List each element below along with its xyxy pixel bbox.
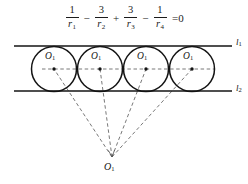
center-point-3	[144, 67, 147, 70]
circle-2-label: O1	[91, 52, 101, 62]
arrowhead-center	[108, 150, 114, 157]
center-point-4	[190, 67, 193, 70]
tangent-circles-diagram: O1 O1 O1 O1 l1 l2 O1	[0, 0, 248, 184]
apex-ray-1	[54, 69, 112, 157]
apex-arrowheads	[108, 150, 114, 157]
center-point-2	[98, 67, 101, 70]
circle-4-label: O1	[183, 52, 193, 62]
apex-label: O1	[104, 162, 114, 173]
circle-1-label: O1	[45, 52, 55, 62]
apex-ray-2	[100, 69, 112, 157]
upper-line-label: l1	[236, 38, 242, 48]
center-point-1	[52, 67, 55, 70]
apex-ray-4	[112, 69, 192, 157]
geometry-figure: 1 r1 − 3 r2 + 3 r3 − 1 r4 =	[0, 0, 248, 184]
apex-rays	[54, 69, 192, 157]
circle-3-label: O1	[137, 52, 147, 62]
apex-ray-3	[112, 69, 146, 157]
lower-line-label: l2	[236, 84, 242, 94]
